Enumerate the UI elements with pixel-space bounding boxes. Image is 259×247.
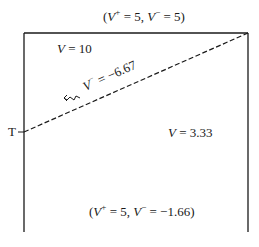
top-label: (V+ = 5, V− = 5) — [103, 10, 185, 23]
lower-region-label: V = 3.33 — [168, 126, 213, 139]
bottom-label: (V+ = 5, V− = −1.66) — [89, 205, 195, 218]
wavy-arrow-icon — [64, 95, 80, 101]
upper-region-label: V = 10 — [57, 42, 92, 55]
point-t-label: T — [8, 125, 16, 138]
